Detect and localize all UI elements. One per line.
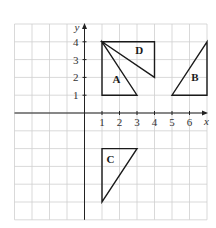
y-tick-label: 4 [73, 36, 79, 48]
triangle-label-a: A [113, 73, 121, 85]
grid-lines [15, 24, 208, 220]
y-tick-label: 1 [73, 89, 79, 101]
tick-labels: 1234561234xy [73, 21, 209, 128]
x-tick-label: 1 [99, 116, 105, 128]
triangle-label-b: B [191, 71, 199, 83]
x-tick-label: 4 [152, 116, 158, 128]
y-tick-label: 2 [73, 71, 79, 83]
x-tick-label: 3 [134, 116, 140, 128]
triangle-label-d: D [135, 44, 143, 56]
x-tick-label: 6 [187, 116, 193, 128]
x-axis-label: x [203, 115, 209, 127]
x-tick-label: 5 [169, 116, 175, 128]
axes [15, 23, 209, 220]
y-tick-label: 3 [73, 54, 79, 66]
y-axis-label: y [74, 21, 80, 33]
triangle-label-c: C [106, 153, 114, 165]
coordinate-grid-diagram: 1234561234xy ABCD [0, 0, 216, 228]
x-tick-label: 2 [117, 116, 123, 128]
